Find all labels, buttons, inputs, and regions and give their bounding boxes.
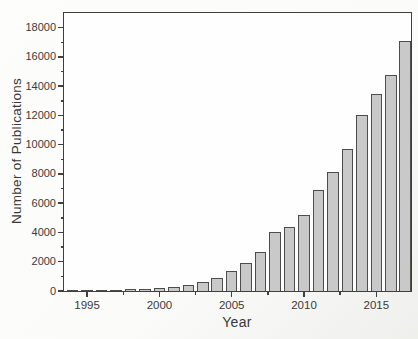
- y-major-tick: [58, 115, 64, 117]
- bar-2005: [226, 271, 238, 291]
- y-tick-label: 10000: [25, 138, 56, 151]
- y-tick-label: 0: [50, 285, 56, 298]
- bar-2014: [356, 115, 368, 291]
- x-minor-tick: [267, 291, 269, 295]
- x-major-tick: [231, 291, 233, 297]
- y-minor-tick: [61, 188, 65, 190]
- bar-2010: [298, 215, 310, 291]
- y-tick-label: 14000: [25, 80, 56, 93]
- bar-2016: [385, 75, 397, 291]
- y-major-tick: [58, 290, 64, 292]
- x-major-tick: [376, 291, 378, 297]
- y-tick-label: 8000: [32, 167, 56, 180]
- x-tick-label: 1995: [74, 299, 100, 311]
- y-minor-tick: [61, 276, 65, 278]
- x-minor-tick: [123, 291, 125, 295]
- x-major-tick: [86, 291, 88, 297]
- bar-1996: [96, 290, 108, 292]
- bar-1997: [110, 290, 122, 292]
- bar-1994: [67, 290, 79, 292]
- y-major-tick: [58, 173, 64, 175]
- y-minor-tick: [61, 217, 65, 219]
- bar-1998: [125, 289, 137, 291]
- bar-2008: [269, 232, 281, 291]
- x-tick-label: 2000: [147, 299, 173, 311]
- y-tick-label: 18000: [25, 21, 56, 34]
- y-minor-tick: [61, 42, 65, 44]
- x-minor-tick: [339, 291, 341, 295]
- y-axis-title: Number of Publications: [9, 78, 24, 224]
- y-minor-tick: [61, 246, 65, 248]
- y-tick-label: 12000: [25, 109, 56, 122]
- y-major-tick: [58, 232, 64, 234]
- bar-2013: [342, 149, 354, 291]
- y-major-tick: [58, 27, 64, 29]
- publications-bar-chart: 0200040006000800010000120001400016000180…: [0, 0, 418, 339]
- bar-2004: [211, 278, 223, 291]
- x-major-tick: [159, 291, 161, 297]
- bar-2011: [313, 190, 325, 291]
- x-major-tick: [303, 291, 305, 297]
- y-minor-tick: [61, 129, 65, 131]
- bar-2009: [284, 227, 296, 291]
- bar-2015: [371, 94, 383, 291]
- bar-2012: [327, 172, 339, 291]
- y-major-tick: [58, 56, 64, 58]
- y-major-tick: [58, 202, 64, 204]
- y-minor-tick: [61, 100, 65, 102]
- x-tick-label: 2010: [291, 299, 317, 311]
- x-minor-tick: [195, 291, 197, 295]
- y-major-tick: [58, 261, 64, 263]
- bar-2001: [168, 287, 180, 291]
- y-major-tick: [58, 144, 64, 146]
- plot-area: 0200040006000800010000120001400016000180…: [63, 12, 412, 292]
- x-tick-label: 2005: [219, 299, 245, 311]
- y-major-tick: [58, 85, 64, 87]
- y-tick-label: 6000: [32, 197, 56, 210]
- y-tick-label: 4000: [32, 226, 56, 239]
- x-tick-label: 2015: [364, 299, 390, 311]
- bar-2003: [197, 282, 209, 291]
- y-minor-tick: [61, 159, 65, 161]
- y-tick-label: 2000: [32, 255, 56, 268]
- bar-2006: [240, 263, 252, 291]
- bar-2007: [255, 252, 267, 291]
- bar-2017: [399, 41, 411, 291]
- bar-2002: [183, 285, 195, 291]
- y-minor-tick: [61, 71, 65, 73]
- y-tick-label: 16000: [25, 50, 56, 63]
- x-axis-title: Year: [222, 314, 252, 330]
- bar-1999: [139, 289, 151, 291]
